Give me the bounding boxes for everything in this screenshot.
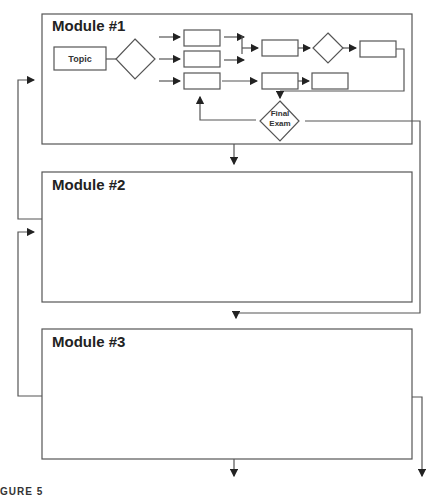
step-box-4 [262,40,298,56]
step-box-2 [184,51,220,67]
final-exam-label: Final Exam [262,109,298,129]
step-box-5 [360,41,396,57]
flowchart-canvas [0,0,434,495]
step-box-1 [184,30,220,46]
step-box-7 [312,73,348,89]
topic-label: Topic [54,47,106,70]
figure-caption: GURE 5 [0,486,43,495]
final-exam-label-line1: Final [262,109,298,119]
decision-diamond-1 [116,39,155,79]
decision-diamond-2 [313,33,343,63]
module-2-title: Module #2 [52,176,125,193]
step-box-6 [262,73,298,89]
module-3-title: Module #3 [52,333,125,350]
module-1-title: Module #1 [52,17,125,34]
final-exam-label-line2: Exam [262,119,298,129]
step-box-3 [184,73,220,89]
